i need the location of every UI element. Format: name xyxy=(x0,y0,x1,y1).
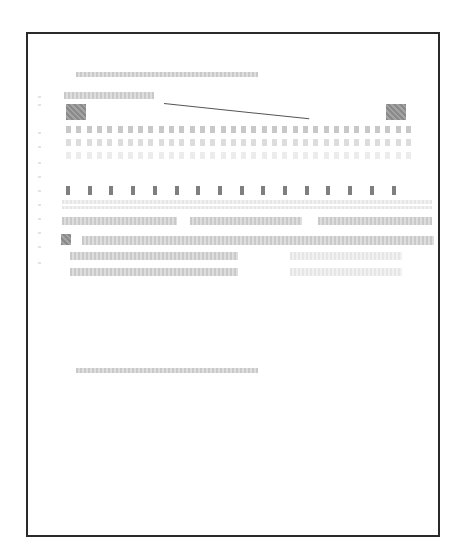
glyph-column xyxy=(241,126,246,165)
tick-mark xyxy=(153,186,157,195)
glyph-column xyxy=(97,126,102,165)
glyph-column xyxy=(334,126,339,165)
text-block xyxy=(62,217,177,225)
glyph-column xyxy=(354,126,359,165)
glyph-column xyxy=(272,126,277,165)
highlighted-line xyxy=(82,236,434,245)
footer-text-block xyxy=(76,368,258,373)
tick-mark xyxy=(88,186,92,195)
text-block xyxy=(290,252,402,260)
margin-mark xyxy=(38,246,41,248)
glyph-column xyxy=(251,126,256,165)
margin-mark xyxy=(38,96,41,98)
glyph-column xyxy=(262,126,267,165)
tick-mark xyxy=(218,186,222,195)
glyph-column xyxy=(128,126,133,165)
right-marker-box xyxy=(386,104,406,120)
margin-mark xyxy=(38,146,41,148)
margin-mark xyxy=(38,232,41,234)
tick-mark xyxy=(109,186,113,195)
tick-mark xyxy=(175,186,179,195)
glyph-column xyxy=(365,126,370,165)
bullet-square xyxy=(61,234,71,245)
glyph-column xyxy=(385,126,390,165)
tick-mark xyxy=(326,186,330,195)
glyph-column xyxy=(148,126,153,165)
text-block xyxy=(290,268,402,276)
text-block xyxy=(70,268,238,276)
tick-mark xyxy=(283,186,287,195)
tick-mark xyxy=(196,186,200,195)
margin-mark xyxy=(38,132,41,134)
glyph-column xyxy=(107,126,112,165)
tick-mark xyxy=(370,186,374,195)
margin-mark xyxy=(38,204,41,206)
glyph-column xyxy=(221,126,226,165)
tick-mark xyxy=(348,186,352,195)
glyph-column xyxy=(313,126,318,165)
margin-mark xyxy=(38,104,41,106)
glyph-column xyxy=(179,126,184,165)
glyph-column xyxy=(282,126,287,165)
margin-mark xyxy=(38,218,41,220)
subheading-text-block xyxy=(64,92,154,99)
glyph-column xyxy=(169,126,174,165)
glyph-column xyxy=(293,126,298,165)
tick-mark xyxy=(261,186,265,195)
glyph-column xyxy=(159,126,164,165)
glyph-column xyxy=(66,126,71,165)
glyph-column xyxy=(406,126,411,165)
tick-mark xyxy=(240,186,244,195)
margin-mark xyxy=(38,176,41,178)
glyph-column xyxy=(303,126,308,165)
glyph-column xyxy=(190,126,195,165)
text-block xyxy=(70,252,238,260)
tick-mark xyxy=(66,186,70,195)
margin-mark xyxy=(38,162,41,164)
glyph-column xyxy=(375,126,380,165)
tick-mark xyxy=(392,186,396,195)
text-block xyxy=(190,217,302,225)
glyph-column xyxy=(324,126,329,165)
text-line xyxy=(62,200,432,204)
margin-mark xyxy=(38,190,41,192)
margin-mark xyxy=(38,262,41,264)
glyph-column xyxy=(210,126,215,165)
glyph-column xyxy=(118,126,123,165)
tick-mark xyxy=(305,186,309,195)
diagonal-line xyxy=(164,103,309,119)
left-marker-box xyxy=(66,104,86,120)
document-page xyxy=(26,32,440,537)
glyph-column xyxy=(138,126,143,165)
heading-text-block xyxy=(76,72,258,77)
glyph-column xyxy=(231,126,236,165)
glyph-column xyxy=(76,126,81,165)
text-line xyxy=(62,206,432,209)
glyph-column xyxy=(344,126,349,165)
tick-mark xyxy=(131,186,135,195)
glyph-column xyxy=(200,126,205,165)
text-block xyxy=(318,217,432,225)
glyph-column xyxy=(396,126,401,165)
glyph-column xyxy=(87,126,92,165)
